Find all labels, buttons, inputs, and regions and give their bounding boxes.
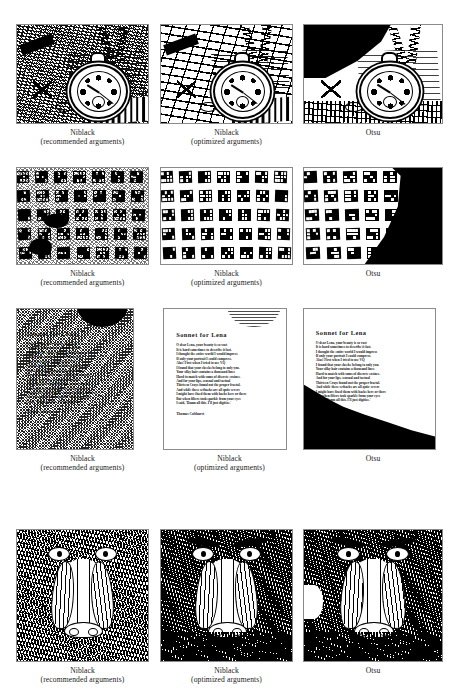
caption-line2: (optimized arguments) [160, 675, 293, 684]
fiducial-marker [237, 190, 250, 202]
caption-line1: Otsu [366, 666, 381, 675]
watch-subdial [92, 96, 105, 108]
fiducial-marker [306, 247, 320, 260]
caption-line2: (optimized arguments) [160, 278, 293, 287]
fiducial-marker [236, 171, 249, 183]
image-panel [160, 167, 293, 265]
image-panel: Sonnet for Lena O dear Lena, your beauty… [16, 308, 134, 450]
cell-mandrill-niblack-optimized: Niblack (optimized arguments) [160, 529, 293, 685]
image-panel: Sonnet for Lena O dear Lena, your beauty… [303, 308, 436, 450]
panel-caption: Niblack (optimized arguments) [163, 454, 296, 473]
cell-pocketwatch-otsu: Otsu [303, 24, 443, 137]
cell-mandrill-niblack-recommended: Niblack (recommended arguments) [16, 529, 149, 685]
nose-bridge [221, 559, 235, 627]
fiducial-marker [217, 171, 230, 183]
fiducial-marker [383, 171, 397, 183]
fiducial-marker [238, 209, 251, 221]
nose-bridge [367, 559, 381, 627]
binarized-image: Sonnet for Lena O dear Lena, your beauty… [304, 309, 435, 449]
eye-right [95, 547, 117, 561]
watch-face [367, 71, 413, 112]
sonnet-line: I said, 'Damn all this. I'll just digiti… [176, 401, 279, 405]
caption-line1: Niblack [70, 269, 95, 278]
fiducial-marker [239, 228, 252, 240]
fiducial-marker [218, 190, 231, 202]
panel-caption: Otsu [303, 666, 443, 675]
caption-line1: Niblack [214, 128, 239, 137]
panel-caption: Niblack (optimized arguments) [160, 128, 293, 147]
x-mark [33, 80, 53, 98]
image-panel [303, 24, 443, 124]
panel-caption: Otsu [303, 128, 443, 137]
fiducial-marker [323, 170, 337, 182]
cell-sonnet-niblack-recommended: Sonnet for Lena O dear Lena, your beauty… [16, 308, 149, 473]
image-panel [16, 529, 149, 662]
eye-left [192, 547, 214, 561]
nose-bridge [77, 559, 91, 627]
panel-caption: Niblack (optimized arguments) [160, 666, 293, 685]
fiducial-marker [257, 209, 270, 221]
beard-fur [304, 632, 442, 661]
eye-right [386, 547, 409, 561]
watch-subdial [236, 96, 249, 108]
fiducial-marker [384, 190, 398, 202]
binarized-image [304, 530, 442, 661]
caption-line1: Niblack [70, 454, 95, 463]
sonnet-signature: Thomas Colthurst [176, 412, 279, 416]
fiducial-marker [346, 247, 360, 259]
x-mark [177, 80, 197, 98]
white-cheek-patch [304, 585, 323, 619]
binarization-comparison-figure: Niblack (recommended arguments) [0, 0, 459, 699]
pen-shape [163, 33, 199, 55]
panel-caption: Otsu [303, 269, 443, 278]
fiducial-marker [304, 190, 318, 203]
image-panel [160, 24, 293, 124]
fiducial-marker [325, 209, 339, 221]
image-panel [16, 24, 149, 124]
sonnet-text: Sonnet for Lena O dear Lena, your beauty… [316, 329, 427, 403]
caption-line1: Niblack [217, 454, 242, 463]
fiducial-marker [182, 247, 196, 259]
sonnet-lines: O dear Lena, your beauty is so vastIt is… [316, 341, 427, 403]
eye-left [337, 547, 360, 561]
caption-line2: (optimized arguments) [160, 137, 293, 146]
caption-line2: (recommended arguments) [16, 675, 149, 684]
fiducial-marker [258, 228, 271, 240]
fiducial-marker [275, 190, 289, 202]
fiducial-marker [343, 171, 357, 183]
fiducial-marker [304, 209, 318, 222]
fiducial-marker [276, 209, 290, 221]
image-panel: Sonnet for Lena O dear Lena, your beauty… [163, 308, 287, 450]
sonnet-lines: O dear Lena, your beauty is so vastIt is… [176, 343, 279, 405]
cell-mandrill-otsu: Otsu [303, 529, 443, 675]
fiducial-marker [364, 190, 378, 202]
fiducial-marker [180, 190, 194, 202]
fiducial-marker [201, 247, 214, 259]
stamp-mark [200, 102, 216, 112]
image-panel [16, 167, 149, 265]
binarized-image [17, 25, 148, 123]
nostrils [64, 622, 103, 638]
fiducial-marker [305, 228, 319, 241]
fiducial-marker [344, 190, 358, 202]
x-mark [321, 80, 342, 98]
fiducial-marker [179, 170, 193, 182]
fiducial-marker [162, 228, 176, 241]
caption-line1: Niblack [70, 666, 95, 675]
binarized-image [17, 530, 148, 661]
fiducial-marker [200, 209, 213, 221]
binarized-image [304, 168, 442, 264]
binarized-image [161, 530, 292, 661]
watch-face [77, 71, 121, 112]
fiducial-marker [198, 171, 211, 183]
fiducial-marker [326, 247, 340, 259]
binarized-image [161, 25, 292, 123]
caption-line2: (optimized arguments) [163, 463, 296, 472]
caption-line1: Niblack [214, 666, 239, 675]
panel-caption: Niblack (optimized arguments) [160, 269, 293, 288]
image-panel [303, 529, 443, 662]
fiducial-marker [199, 190, 212, 202]
caption-line1: Otsu [366, 128, 381, 137]
fiducial-marker [363, 171, 377, 183]
binarized-image [17, 168, 148, 264]
